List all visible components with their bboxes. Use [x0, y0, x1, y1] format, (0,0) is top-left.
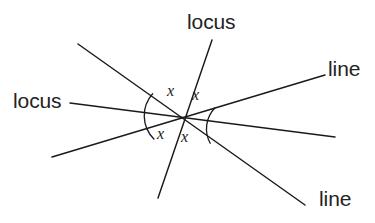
label-line-bottom: line	[319, 188, 351, 209]
line-sw-ne	[52, 75, 325, 157]
label-locus-top: locus	[187, 11, 236, 32]
label-locus-left: locus	[13, 90, 62, 111]
angle-label-top-left: x	[167, 83, 174, 99]
label-line-right: line	[328, 58, 360, 79]
angle-label-bottom-right: x	[181, 129, 188, 145]
angle-label-bottom-left: x	[157, 126, 164, 142]
geometry-diagram: locus locus line line x x x x	[0, 0, 375, 223]
locus-steep-line	[158, 40, 212, 198]
left-angle-arc	[144, 94, 154, 139]
line-nw-se	[78, 44, 305, 205]
angle-label-top-right: x	[192, 87, 199, 103]
